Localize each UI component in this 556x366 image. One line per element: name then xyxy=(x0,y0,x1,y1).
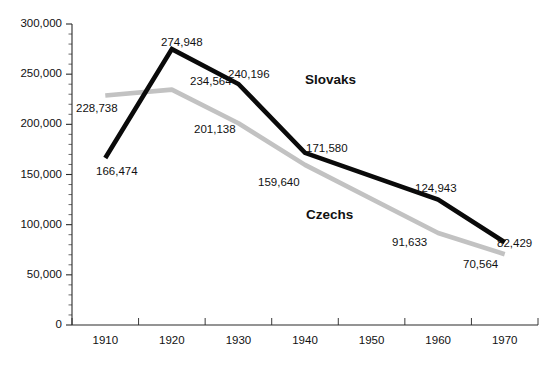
point-label-171580: 171,580 xyxy=(306,142,348,154)
point-label-274948: 274,948 xyxy=(161,36,203,48)
point-label-166474: 166,474 xyxy=(96,165,138,177)
slovaks-series-label: Slovaks xyxy=(305,72,356,87)
point-label-82429: 82,429 xyxy=(497,237,532,249)
point-label-240196: 240,196 xyxy=(228,68,270,80)
x-tick-label-1950: 1950 xyxy=(359,334,385,346)
point-label-228738: 228,738 xyxy=(76,102,118,114)
x-axis-tick-labels: 1910192019301940195019601970 xyxy=(92,334,517,346)
y-axis-tick-labels: 050,000100,000150,000200,000250,000300,0… xyxy=(20,17,62,330)
point-label-70564: 70,564 xyxy=(463,258,499,270)
x-tick-label-1960: 1960 xyxy=(425,334,451,346)
x-tick-label-1970: 1970 xyxy=(492,334,518,346)
x-tick-label-1930: 1930 xyxy=(226,334,252,346)
point-label-124943: 124,943 xyxy=(415,182,457,194)
point-label-159640: 159,640 xyxy=(258,176,300,188)
y-tick-label-200000: 200,000 xyxy=(20,117,62,129)
series-line-czechs xyxy=(105,90,504,255)
x-tick-label-1940: 1940 xyxy=(292,334,318,346)
y-tick-label-250000: 250,000 xyxy=(20,67,62,79)
point-label-91633: 91,633 xyxy=(392,236,427,248)
point-label-234564: 234,564 xyxy=(190,75,232,87)
line-chart-figure: 050,000100,000150,000200,000250,000300,0… xyxy=(0,0,556,366)
y-tick-label-150000: 150,000 xyxy=(20,168,62,180)
y-tick-label-100000: 100,000 xyxy=(20,218,62,230)
y-tick-label-0: 0 xyxy=(56,318,62,330)
chart-canvas: 050,000100,000150,000200,000250,000300,0… xyxy=(0,0,556,366)
x-tick-label-1910: 1910 xyxy=(92,334,118,346)
point-label-201138: 201,138 xyxy=(194,123,236,135)
y-axis-major-ticks xyxy=(66,24,72,325)
czechs-series-label: Czechs xyxy=(306,207,353,222)
x-axis-ticks xyxy=(72,318,538,325)
y-tick-label-50000: 50,000 xyxy=(27,268,62,280)
y-tick-label-300000: 300,000 xyxy=(20,17,62,29)
x-tick-label-1920: 1920 xyxy=(159,334,185,346)
